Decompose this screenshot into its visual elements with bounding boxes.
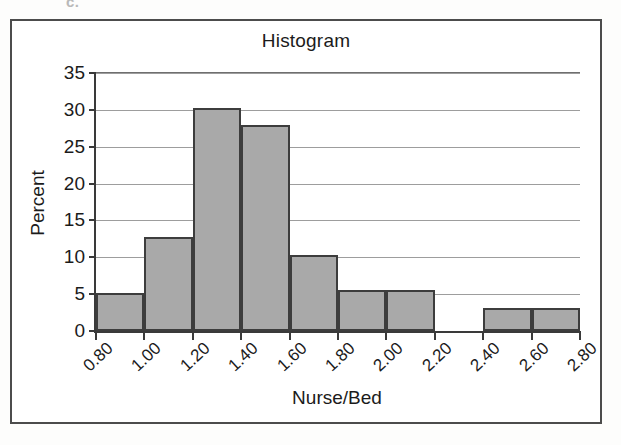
histogram-bar	[193, 108, 241, 331]
x-tick-label: 2.60	[515, 339, 553, 376]
chart-frame: Histogram Percent 35302520151050 0.801.0…	[10, 19, 602, 424]
x-tick-label: 2.80	[563, 339, 601, 376]
gridline	[96, 220, 580, 221]
histogram-bar	[241, 125, 289, 331]
x-tick-label: 1.60	[273, 339, 311, 376]
x-tick-label: 0.80	[79, 339, 117, 376]
x-tick-mark	[531, 331, 533, 340]
y-tick-mark	[89, 219, 96, 221]
figure-label: c.	[66, 0, 80, 10]
x-tick-label: 2.00	[370, 339, 408, 376]
x-tick-mark	[579, 331, 581, 340]
chart-title: Histogram	[12, 30, 600, 52]
x-tick-mark	[482, 331, 484, 340]
histogram-bar	[532, 308, 580, 331]
y-tick-label: 20	[64, 173, 85, 195]
histogram-bar	[96, 293, 144, 331]
y-tick-mark	[89, 256, 96, 258]
y-tick-label: 30	[64, 99, 85, 121]
x-axis-title: Nurse/Bed	[94, 387, 580, 409]
y-tick-mark	[89, 72, 96, 74]
gridline	[96, 184, 580, 185]
x-tick-label: 1.20	[176, 339, 214, 376]
y-tick-mark	[89, 293, 96, 295]
y-tick-label: 10	[64, 246, 85, 268]
gridline	[96, 73, 580, 74]
plot-area: 35302520151050 0.801.001.201.401.601.802…	[94, 72, 580, 333]
x-tick-mark	[192, 331, 194, 340]
x-tick-label: 1.00	[128, 339, 166, 376]
gridline	[96, 110, 580, 111]
x-tick-mark	[95, 331, 97, 340]
y-tick-label: 35	[64, 62, 85, 84]
histogram-bar	[483, 308, 531, 331]
x-tick-mark	[240, 331, 242, 340]
histogram-bar	[144, 237, 192, 331]
y-tick-label: 5	[74, 283, 85, 305]
gridline	[96, 147, 580, 148]
y-tick-mark	[89, 183, 96, 185]
x-tick-label: 1.40	[225, 339, 263, 376]
histogram-bar	[386, 290, 434, 331]
x-tick-mark	[143, 331, 145, 340]
x-tick-label: 1.80	[321, 339, 359, 376]
x-tick-mark	[434, 331, 436, 340]
y-tick-mark	[89, 109, 96, 111]
x-tick-mark	[385, 331, 387, 340]
x-tick-label: 2.40	[467, 339, 505, 376]
histogram-bar	[338, 290, 386, 331]
histogram-bar	[290, 255, 338, 331]
x-tick-mark	[289, 331, 291, 340]
x-tick-mark	[337, 331, 339, 340]
y-tick-label: 15	[64, 209, 85, 231]
y-axis-title: Percent	[26, 72, 50, 333]
y-tick-label: 25	[64, 136, 85, 158]
y-tick-mark	[89, 146, 96, 148]
y-axis-title-label: Percent	[27, 170, 49, 235]
x-tick-label: 2.20	[418, 339, 456, 376]
y-tick-label: 0	[74, 320, 85, 342]
